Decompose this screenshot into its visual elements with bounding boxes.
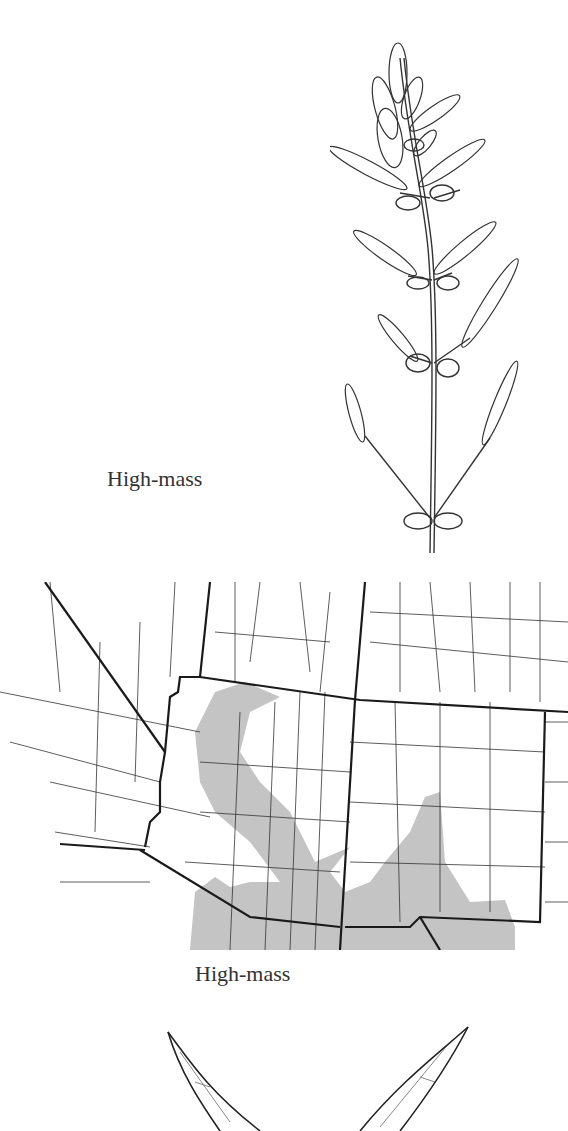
map-caption: High-mass <box>195 961 290 987</box>
leaf-illustration <box>150 1022 480 1131</box>
plant-illustration <box>330 18 530 558</box>
range-map <box>0 582 568 950</box>
illustration-caption: High-mass <box>107 466 202 492</box>
